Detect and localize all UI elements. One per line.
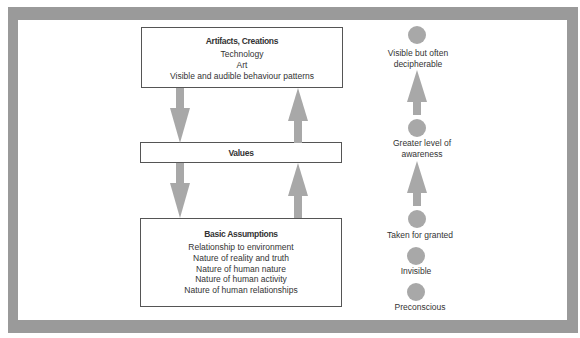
level-label-preconscious: Preconscious [365,302,475,313]
arrow-up-icon [288,88,308,143]
artifacts-title: Artifacts, Creations [142,36,342,46]
values-box: Values [140,142,342,163]
arrow-down-icon [170,163,190,218]
label-line: Taken for granted [365,230,475,241]
arrow-up-icon [407,70,427,115]
artifacts-box: Artifacts, Creations Technology Art Visi… [141,27,343,88]
assumptions-box: Basic Assumptions Relationship to enviro… [140,218,342,307]
label-line: Invisible [361,266,471,277]
artifacts-item: Art [142,60,342,71]
level-marker-circle [408,210,426,228]
label-line: Preconscious [365,302,475,313]
level-label-visible: Visible but often decipherable [363,48,473,69]
label-line: Visible but often [363,48,473,59]
label-line: decipherable [363,59,473,70]
level-label-invisible: Invisible [361,266,471,277]
assumptions-item: Nature of human activity [141,274,341,285]
level-label-awareness: Greater level of awareness [367,138,477,159]
assumptions-item: Nature of human nature [141,264,341,275]
level-marker-circle [407,283,425,301]
label-line: Greater level of [367,138,477,149]
assumptions-item: Nature of reality and truth [141,253,341,264]
assumptions-title: Basic Assumptions [141,229,341,239]
label-line: awareness [367,149,477,160]
arrow-up-icon [407,161,427,206]
values-title: Values [141,148,341,158]
level-marker-circle [407,247,425,265]
level-marker-circle [408,119,426,137]
assumptions-item: Relationship to environment [141,242,341,253]
arrow-down-icon [170,88,190,143]
level-marker-circle [408,26,426,44]
artifacts-item: Technology [142,49,342,60]
assumptions-item: Nature of human relationships [141,285,341,296]
artifacts-item: Visible and audible behaviour patterns [142,71,342,82]
level-label-taken-for-granted: Taken for granted [365,230,475,241]
arrow-up-icon [288,163,308,218]
